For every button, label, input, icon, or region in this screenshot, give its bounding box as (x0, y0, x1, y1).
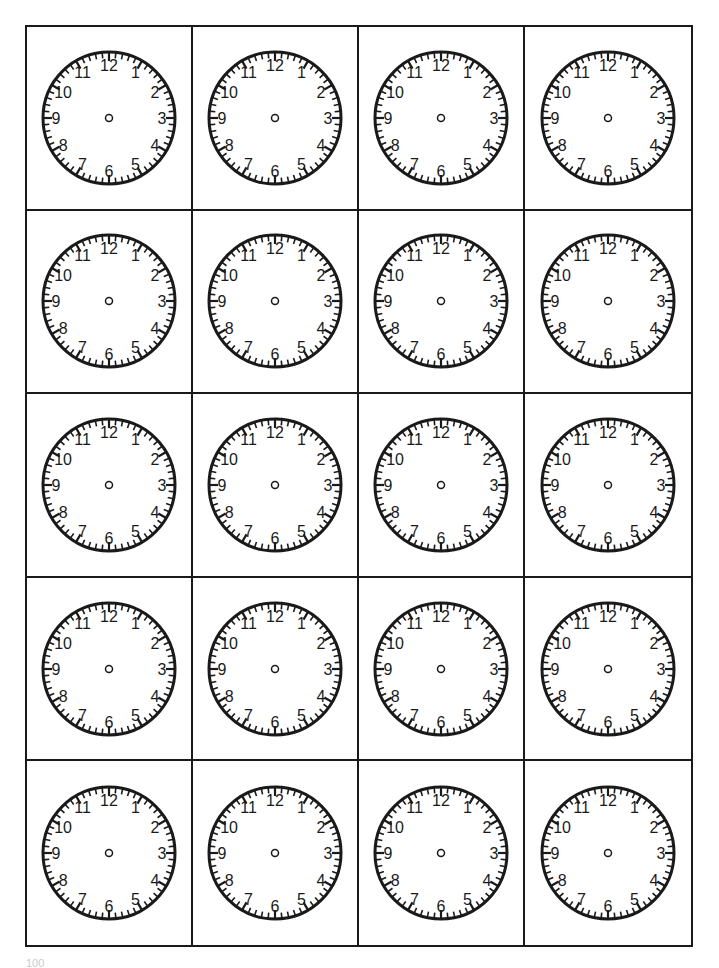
svg-text:9: 9 (52, 110, 61, 127)
svg-text:7: 7 (78, 156, 87, 173)
svg-text:10: 10 (54, 267, 72, 284)
svg-text:5: 5 (463, 706, 472, 723)
svg-text:3: 3 (490, 110, 499, 127)
svg-text:11: 11 (406, 247, 423, 264)
svg-text:9: 9 (551, 661, 560, 678)
svg-text:11: 11 (74, 64, 91, 81)
svg-text:4: 4 (150, 503, 159, 520)
clock-face-icon: 121234567891011 (38, 230, 180, 372)
svg-text:9: 9 (218, 477, 227, 494)
clock-face-icon: 121234567891011 (38, 782, 180, 924)
svg-text:2: 2 (649, 450, 658, 467)
clock-cell: 121234567891011 (27, 27, 193, 211)
svg-text:6: 6 (604, 898, 613, 915)
svg-text:1: 1 (630, 247, 639, 264)
svg-text:8: 8 (59, 320, 68, 337)
svg-text:11: 11 (240, 615, 257, 632)
svg-text:5: 5 (131, 156, 140, 173)
svg-text:10: 10 (553, 634, 571, 651)
svg-text:5: 5 (131, 339, 140, 356)
svg-text:4: 4 (316, 687, 325, 704)
svg-text:12: 12 (599, 792, 617, 809)
svg-text:7: 7 (577, 156, 586, 173)
clock-cell: 121234567891011 (27, 578, 193, 762)
svg-text:4: 4 (150, 687, 159, 704)
svg-text:7: 7 (410, 339, 419, 356)
svg-text:12: 12 (432, 424, 450, 441)
svg-text:12: 12 (100, 608, 118, 625)
svg-text:8: 8 (391, 687, 400, 704)
svg-text:1: 1 (630, 615, 639, 632)
svg-text:6: 6 (105, 898, 114, 915)
svg-text:4: 4 (316, 503, 325, 520)
svg-text:1: 1 (630, 799, 639, 816)
clock-face-icon: 121234567891011 (370, 414, 512, 556)
svg-text:5: 5 (463, 523, 472, 540)
svg-text:7: 7 (577, 339, 586, 356)
svg-text:7: 7 (577, 891, 586, 908)
clock-face-icon: 121234567891011 (38, 598, 180, 740)
svg-text:1: 1 (463, 431, 472, 448)
svg-text:10: 10 (386, 819, 404, 836)
svg-text:7: 7 (410, 706, 419, 723)
svg-text:5: 5 (630, 706, 639, 723)
svg-text:12: 12 (599, 240, 617, 257)
svg-text:11: 11 (406, 799, 423, 816)
svg-text:6: 6 (437, 898, 446, 915)
svg-text:8: 8 (59, 136, 68, 153)
clock-cell: 121234567891011 (525, 578, 691, 762)
svg-text:5: 5 (297, 706, 306, 723)
svg-text:6: 6 (437, 714, 446, 731)
svg-text:3: 3 (158, 845, 167, 862)
svg-text:8: 8 (225, 136, 234, 153)
svg-text:12: 12 (432, 608, 450, 625)
svg-text:12: 12 (100, 240, 118, 257)
svg-text:9: 9 (52, 661, 61, 678)
svg-text:6: 6 (271, 530, 280, 547)
clock-cell: 121234567891011 (193, 578, 359, 762)
svg-text:2: 2 (649, 819, 658, 836)
clock-face-icon: 121234567891011 (370, 598, 512, 740)
clock-cell: 121234567891011 (193, 761, 359, 945)
svg-text:12: 12 (432, 792, 450, 809)
svg-text:2: 2 (482, 267, 491, 284)
svg-text:8: 8 (558, 503, 567, 520)
svg-text:11: 11 (573, 615, 590, 632)
svg-text:11: 11 (573, 799, 590, 816)
svg-text:1: 1 (463, 247, 472, 264)
svg-text:12: 12 (599, 424, 617, 441)
svg-text:4: 4 (316, 320, 325, 337)
clock-face-icon: 121234567891011 (537, 47, 679, 189)
svg-text:6: 6 (437, 346, 446, 363)
svg-text:5: 5 (630, 523, 639, 540)
svg-text:9: 9 (551, 110, 560, 127)
svg-text:11: 11 (406, 431, 423, 448)
svg-text:5: 5 (131, 706, 140, 723)
svg-text:8: 8 (558, 872, 567, 889)
svg-text:10: 10 (553, 819, 571, 836)
clock-worksheet-grid: 1212345678910111212345678910111212345678… (25, 25, 693, 947)
svg-text:11: 11 (74, 247, 91, 264)
svg-text:10: 10 (386, 83, 404, 100)
clock-cell: 121234567891011 (27, 211, 193, 395)
clock-face-icon: 121234567891011 (537, 598, 679, 740)
svg-text:4: 4 (482, 503, 491, 520)
svg-text:12: 12 (266, 424, 284, 441)
svg-text:3: 3 (324, 845, 333, 862)
svg-text:7: 7 (410, 156, 419, 173)
svg-text:2: 2 (150, 267, 159, 284)
svg-text:9: 9 (218, 293, 227, 310)
svg-text:2: 2 (316, 819, 325, 836)
svg-text:11: 11 (74, 431, 91, 448)
svg-text:1: 1 (463, 64, 472, 81)
svg-text:7: 7 (244, 156, 253, 173)
clock-cell: 121234567891011 (193, 27, 359, 211)
clock-cell: 121234567891011 (525, 761, 691, 945)
svg-text:4: 4 (150, 872, 159, 889)
svg-text:7: 7 (78, 523, 87, 540)
svg-text:1: 1 (131, 799, 140, 816)
svg-text:2: 2 (316, 450, 325, 467)
clock-cell: 121234567891011 (525, 27, 691, 211)
svg-text:4: 4 (150, 136, 159, 153)
svg-text:6: 6 (271, 898, 280, 915)
